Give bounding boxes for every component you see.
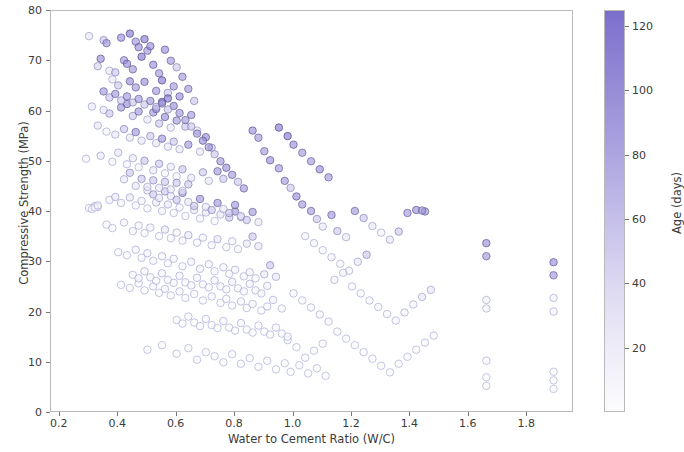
y-tick-label: 0 <box>12 406 42 419</box>
y-tick-label: 80 <box>12 4 42 17</box>
x-axis-label: Water to Cement Ratio (W/C) <box>50 432 573 446</box>
x-tick-mark <box>176 412 177 416</box>
plot-area <box>50 10 573 412</box>
x-tick-label: 1.6 <box>459 417 477 430</box>
x-tick-mark <box>409 412 410 416</box>
x-tick-label: 1.8 <box>518 417 536 430</box>
x-tick-mark <box>293 412 294 416</box>
colorbar-tick-mark <box>625 90 629 91</box>
x-tick-label: 1.2 <box>342 417 360 430</box>
x-tick-label: 1.0 <box>284 417 302 430</box>
x-tick-mark <box>526 412 527 416</box>
colorbar-tick-label: 120 <box>632 20 653 33</box>
colorbar-tick-label: 20 <box>632 341 646 354</box>
colorbar-tick-mark <box>625 283 629 284</box>
y-axis-label: Compressive Strength (MPa) <box>17 93 31 313</box>
colorbar-tick-mark <box>625 348 629 349</box>
x-tick-label: 1.4 <box>401 417 419 430</box>
colorbar-tick-mark <box>625 219 629 220</box>
scatter-points-canvas <box>51 11 573 412</box>
colorbar-label: Age (days) <box>670 123 684 283</box>
colorbar <box>604 10 625 412</box>
x-tick-mark <box>59 412 60 416</box>
x-tick-mark <box>117 412 118 416</box>
x-tick-label: 0.2 <box>50 417 68 430</box>
x-tick-mark <box>351 412 352 416</box>
y-tick-label: 10 <box>12 355 42 368</box>
x-tick-label: 0.8 <box>225 417 243 430</box>
y-tick-label: 70 <box>12 54 42 67</box>
y-tick-mark <box>46 412 50 413</box>
colorbar-tick-label: 40 <box>632 277 646 290</box>
colorbar-tick-label: 80 <box>632 148 646 161</box>
x-tick-label: 0.6 <box>167 417 185 430</box>
colorbar-tick-mark <box>625 155 629 156</box>
x-tick-mark <box>234 412 235 416</box>
colorbar-tick-label: 100 <box>632 84 653 97</box>
x-tick-mark <box>468 412 469 416</box>
colorbar-tick-label: 60 <box>632 213 646 226</box>
colorbar-tick-mark <box>625 26 629 27</box>
x-tick-label: 0.4 <box>108 417 126 430</box>
